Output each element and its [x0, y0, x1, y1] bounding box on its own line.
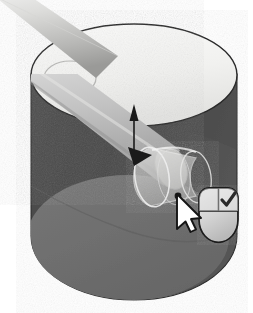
- cylinder-probe-illustration: [0, 0, 253, 313]
- mouse-left-button[interactable]: [199, 188, 219, 211]
- mouse-device[interactable]: [199, 188, 238, 242]
- vessel-floor: [27, 175, 229, 301]
- cylinder-vessel: [27, 24, 237, 301]
- illustration-canvas: Cylindrical vessel with inserted probe a…: [0, 0, 253, 313]
